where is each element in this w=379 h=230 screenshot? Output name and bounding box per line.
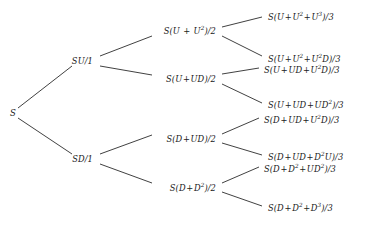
tree-edge (222, 17, 262, 27)
binomial-tree-figure: SSU/1SD/1S(U + U2)/2S(U+UD)/2S(D+UD)/2S(… (0, 0, 379, 230)
tree-node-root: S (10, 109, 16, 118)
tree-node-n-du: S(D+UD)/2 (166, 135, 216, 143)
tree-leaf-leaf-7: S(D+D2+UD2)/3 (264, 165, 336, 173)
tree-edge (222, 167, 259, 183)
tree-leaf-leaf-6: S(D+UD+D2U)/3 (268, 153, 343, 161)
tree-leaf-leaf-8: S(D+D2+D3)/3 (268, 204, 333, 212)
tree-edge (222, 68, 259, 74)
tree-node-n-ud: S(U+UD)/2 (166, 75, 216, 83)
tree-edge (222, 84, 262, 103)
tree-node-n-uu: S(U + U2)/2 (164, 27, 216, 35)
tree-edge (100, 36, 152, 56)
tree-edge (100, 66, 152, 75)
tree-leaf-leaf-4: S(U+UD+UD2)/3 (268, 101, 344, 109)
tree-leaf-leaf-3: S(U+UD+U2D)/3 (264, 66, 340, 74)
tree-leaf-leaf-1: S(U+U2+U3)/3 (268, 13, 334, 21)
tree-node-n-dd: S(D+D2)/2 (170, 184, 216, 192)
tree-edge (222, 143, 262, 155)
tree-edge (222, 36, 262, 56)
tree-edge (222, 118, 259, 134)
tree-edge (100, 164, 152, 183)
tree-edge (100, 135, 152, 154)
tree-edge (222, 192, 262, 206)
tree-node-n-d: SD/1 (72, 155, 93, 163)
tree-leaf-leaf-2: S(U+U2+U2D)/3 (268, 55, 341, 63)
tree-node-n-u: SU/1 (72, 57, 93, 65)
tree-edge (18, 66, 72, 108)
tree-leaf-leaf-5: S(D+UD+U2D)/3 (264, 116, 339, 124)
tree-edge (18, 118, 72, 154)
